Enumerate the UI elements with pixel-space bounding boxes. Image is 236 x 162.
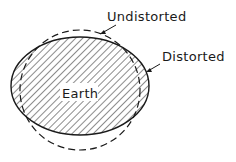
earth-distortion-diagram: Earth Undistorted Distorted bbox=[0, 0, 236, 162]
undistorted-label: Undistorted bbox=[107, 9, 186, 24]
earth-label: Earth bbox=[62, 86, 98, 101]
undistorted-arrowhead-icon bbox=[100, 30, 106, 34]
distorted-arrowhead-icon bbox=[146, 68, 152, 72]
distorted-label: Distorted bbox=[162, 49, 225, 64]
